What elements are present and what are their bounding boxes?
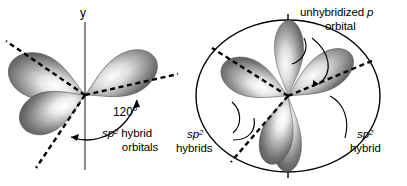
- sp2-hybrids-line2: hybrids: [176, 142, 230, 156]
- sp2-lobe-right: [76, 41, 165, 115]
- angle-arc-arrowhead-start: [71, 134, 79, 141]
- sp2-symbol-hybrid: sp: [357, 128, 369, 140]
- sp2-hybrid-orbitals-label: sp2 hybrid orbitals: [102, 125, 174, 154]
- unhybridized-p-orbital-line2: orbital: [300, 20, 404, 34]
- sp2-sup-hybrid: 2: [369, 128, 373, 137]
- unhybridized-word: unhybridized: [300, 6, 367, 18]
- sp2-hybrids-label: sp2 hybrids: [176, 126, 230, 155]
- y-axis-label: y: [80, 6, 86, 20]
- angle-120-label: 120°: [113, 106, 137, 120]
- orbital-figure: y 120° sp2 hybrid orbitals unhybridized …: [0, 0, 407, 186]
- sp2-sup-hybrids: 2: [199, 128, 203, 137]
- unhybridized-p-orbital-label: unhybridized p orbital: [300, 6, 404, 33]
- sp2-hybrid-word-left: hybrid: [118, 127, 152, 139]
- sp2-hybrid-line2: hybrid: [350, 142, 402, 156]
- unhybridized-p-orbital-line1: unhybridized p: [300, 6, 404, 20]
- sp2-hybrid-line1: sp2: [350, 126, 402, 142]
- leader-sp2-hybrids-a: [232, 102, 240, 133]
- sp2-symbol-hybrids: sp: [187, 128, 199, 140]
- leader-sp2-hybrid-right: [330, 96, 347, 138]
- sp2-hybrid-orbitals-line1: sp2 hybrid: [102, 125, 174, 141]
- sp2-symbol-left: sp: [102, 127, 114, 139]
- sp2-hybrids-line1: sp2: [176, 126, 230, 142]
- sp2-hybrid-orbitals-line2: orbitals: [102, 141, 174, 155]
- p-symbol: p: [367, 6, 373, 18]
- sp2-hybrid-label: sp2 hybrid: [350, 126, 402, 155]
